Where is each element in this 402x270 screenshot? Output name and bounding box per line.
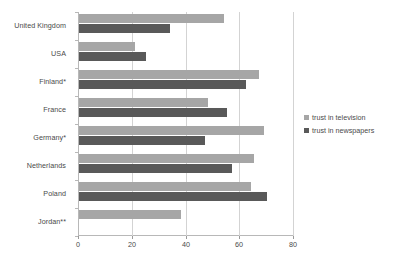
legend-label: trust in television (312, 114, 366, 121)
category-label-7: Jordan** (0, 218, 66, 225)
category-tick (75, 180, 78, 181)
bar-television (79, 98, 208, 107)
gridline-40 (186, 12, 187, 236)
bar-television (79, 154, 254, 163)
bar-chart: United KingdomUSAFinland*FranceGermany*N… (0, 0, 402, 270)
bar-newspapers (79, 108, 227, 117)
value-tick-mark (239, 236, 240, 239)
bar-television (79, 42, 135, 51)
category-axis-labels: United KingdomUSAFinland*FranceGermany*N… (0, 12, 72, 236)
value-tick-mark (186, 236, 187, 239)
bar-newspapers (79, 80, 246, 89)
value-tick-mark (78, 236, 79, 239)
bar-newspapers (79, 164, 232, 173)
gridline-80 (293, 12, 294, 236)
value-tick-label-60: 60 (235, 241, 243, 248)
category-tick (75, 124, 78, 125)
value-tick-mark (132, 236, 133, 239)
legend-item-0[interactable]: trust in television (304, 112, 400, 123)
category-label-5: Netherlands (0, 162, 66, 169)
category-tick (75, 12, 78, 13)
bar-television (79, 210, 181, 219)
bar-television (79, 70, 259, 79)
legend-item-1[interactable]: trust in newspapers (304, 125, 400, 136)
category-tick (75, 68, 78, 69)
category-label-0: United Kingdom (0, 22, 66, 29)
value-tick-label-80: 80 (289, 241, 297, 248)
category-tick (75, 96, 78, 97)
value-tick-mark (293, 236, 294, 239)
bar-television (79, 182, 251, 191)
category-tick (75, 208, 78, 209)
bar-newspapers (79, 52, 146, 61)
category-label-4: Germany* (0, 134, 66, 141)
value-tick-label-40: 40 (182, 241, 190, 248)
legend-swatch-icon (304, 115, 309, 120)
chart-legend: trust in televisiontrust in newspapers (304, 112, 400, 138)
legend-swatch-icon (304, 128, 309, 133)
plot-area (78, 12, 293, 236)
bar-newspapers (79, 24, 170, 33)
gridline-60 (239, 12, 240, 236)
bar-newspapers (79, 136, 205, 145)
value-axis-ticks: 020406080 (78, 236, 293, 256)
category-label-3: France (0, 106, 66, 113)
legend-label: trust in newspapers (312, 127, 374, 134)
category-label-1: USA (0, 50, 66, 57)
category-tick (75, 40, 78, 41)
value-tick-label-0: 0 (76, 241, 80, 248)
category-label-2: Finland* (0, 78, 66, 85)
category-tick (75, 152, 78, 153)
bar-newspapers (79, 192, 267, 201)
category-label-6: Poland (0, 190, 66, 197)
value-tick-label-20: 20 (128, 241, 136, 248)
bar-television (79, 126, 264, 135)
bar-television (79, 14, 224, 23)
